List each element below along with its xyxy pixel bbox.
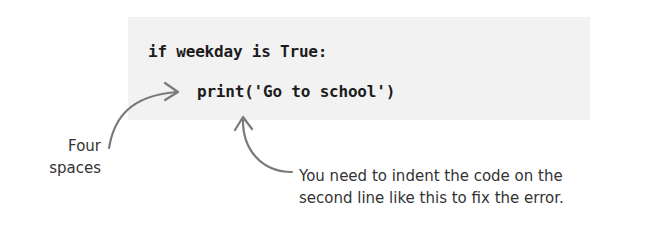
indent-note-arrow-icon: [235, 117, 292, 172]
code-block: [128, 17, 590, 120]
code-line-indented-print: print('Go to school'): [197, 84, 395, 100]
code-line-if-statement: if weekday is True:: [148, 44, 327, 60]
indent-note-label: You need to indent the code on the secon…: [299, 165, 564, 209]
four-spaces-label: Four spaces: [49, 135, 101, 179]
